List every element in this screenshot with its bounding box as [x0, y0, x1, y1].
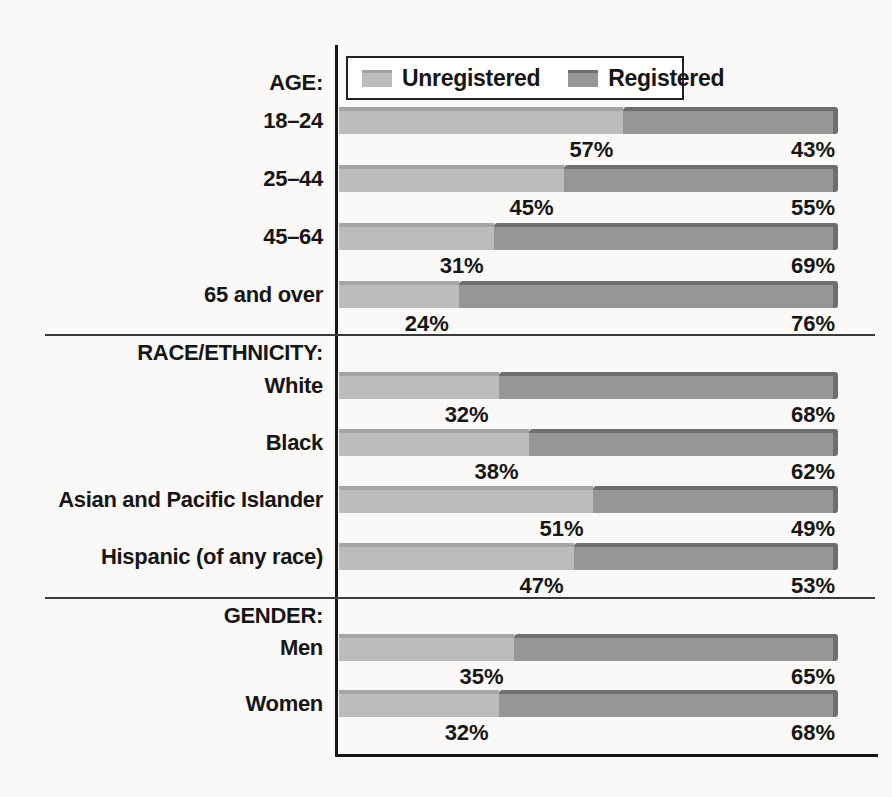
- unregistered-value-label: 32%: [445, 402, 489, 427]
- section-age: AGE: 18–24 57% 43% 25–44: [0, 70, 892, 339]
- registered-segment: [459, 281, 838, 308]
- section-header-row: AGE:: [0, 70, 892, 107]
- unregistered-value-label: 47%: [519, 573, 563, 598]
- registered-segment: [593, 486, 838, 513]
- stacked-bar: [339, 690, 838, 717]
- row-18-24: 18–24 57% 43%: [0, 107, 892, 165]
- registered-segment: [514, 634, 838, 661]
- unregistered-value-label: 51%: [539, 516, 583, 541]
- unregistered-value-label: 35%: [460, 664, 504, 689]
- unregistered-segment: [339, 107, 623, 134]
- row-black: Black 38% 62%: [0, 429, 892, 486]
- row-asian-pacific-islander: Asian and Pacific Islander 51% 49%: [0, 486, 892, 543]
- category-label: 25–44: [0, 165, 336, 223]
- section-header-gender: GENDER:: [0, 603, 336, 634]
- unregistered-value-label: 31%: [440, 253, 484, 278]
- category-label: Hispanic (of any race): [0, 543, 336, 600]
- unregistered-value-label: 24%: [405, 311, 449, 336]
- stacked-bar: [339, 372, 838, 399]
- registered-segment: [564, 165, 838, 192]
- x-axis-line: [335, 754, 878, 757]
- row-25-44: 25–44 45% 55%: [0, 165, 892, 223]
- unregistered-segment: [339, 486, 593, 513]
- section-gender: GENDER: Men 35% 65% Women: [0, 603, 892, 746]
- stacked-bar: [339, 223, 838, 250]
- registered-value-label: 69%: [791, 253, 835, 278]
- unregistered-segment: [339, 634, 514, 661]
- unregistered-segment: [339, 372, 499, 399]
- unregistered-segment: [339, 690, 499, 717]
- section-header-row: RACE/ETHNICITY:: [0, 340, 892, 372]
- section-header-age: AGE:: [0, 70, 336, 107]
- category-label: White: [0, 372, 336, 429]
- stacked-bar: [339, 281, 838, 308]
- row-women: Women 32% 68%: [0, 690, 892, 746]
- unregistered-segment: [339, 165, 564, 192]
- stacked-bar: [339, 486, 838, 513]
- unregistered-value-label: 45%: [510, 195, 554, 220]
- section-header-row: GENDER:: [0, 603, 892, 634]
- section-race-ethnicity: RACE/ETHNICITY: White 32% 68% Black: [0, 340, 892, 600]
- category-label: Black: [0, 429, 336, 486]
- row-white: White 32% 68%: [0, 372, 892, 429]
- stacked-bar: [339, 543, 838, 570]
- unregistered-segment: [339, 543, 574, 570]
- registered-value-label: 68%: [791, 402, 835, 427]
- registered-value-label: 53%: [791, 573, 835, 598]
- unregistered-segment: [339, 223, 494, 250]
- stacked-bar: [339, 429, 838, 456]
- stacked-bar: [339, 165, 838, 192]
- row-hispanic: Hispanic (of any race) 47% 53%: [0, 543, 892, 600]
- registered-value-label: 43%: [791, 137, 835, 162]
- category-label: Asian and Pacific Islander: [0, 486, 336, 543]
- registered-segment: [623, 107, 838, 134]
- registered-segment: [499, 372, 838, 399]
- category-label: 65 and over: [0, 281, 336, 339]
- unregistered-segment: [339, 429, 529, 456]
- section-header-race-ethnicity: RACE/ETHNICITY:: [0, 340, 336, 372]
- category-label: 18–24: [0, 107, 336, 165]
- category-label: Women: [0, 690, 336, 746]
- registered-value-label: 62%: [791, 459, 835, 484]
- stacked-bar: [339, 107, 838, 134]
- registered-value-label: 68%: [791, 720, 835, 745]
- row-45-64: 45–64 31% 69%: [0, 223, 892, 281]
- unregistered-value-label: 57%: [569, 137, 613, 162]
- registered-value-label: 55%: [791, 195, 835, 220]
- registered-segment: [574, 543, 838, 570]
- registration-stacked-bar-chart: Unregistered Registered AGE: 18–24 57% 4…: [0, 0, 892, 797]
- category-label: 45–64: [0, 223, 336, 281]
- registered-segment: [529, 429, 838, 456]
- registered-segment: [499, 690, 838, 717]
- registered-value-label: 49%: [791, 516, 835, 541]
- category-label: Men: [0, 634, 336, 690]
- row-65-and-over: 65 and over 24% 76%: [0, 281, 892, 339]
- registered-value-label: 76%: [791, 311, 835, 336]
- stacked-bar: [339, 634, 838, 661]
- row-men: Men 35% 65%: [0, 634, 892, 690]
- unregistered-segment: [339, 281, 459, 308]
- registered-segment: [494, 223, 838, 250]
- unregistered-value-label: 32%: [445, 720, 489, 745]
- unregistered-value-label: 38%: [475, 459, 519, 484]
- registered-value-label: 65%: [791, 664, 835, 689]
